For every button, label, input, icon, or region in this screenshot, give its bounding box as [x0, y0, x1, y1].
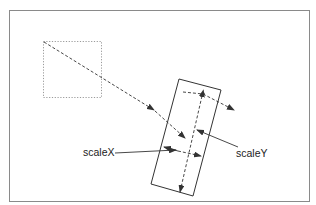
rotation-arrow — [203, 94, 234, 110]
pivot-point — [201, 92, 205, 96]
translation-arrow-1 — [44, 42, 154, 110]
source-square-outline — [44, 42, 102, 98]
scale-y-axis-arrow — [180, 96, 202, 192]
scale-x-pointer — [115, 150, 176, 153]
transformed-rectangle — [151, 79, 221, 196]
scale-transform-diagram: scaleX scaleY — [0, 0, 316, 205]
translation-arrow-2 — [155, 111, 185, 138]
scale-x-label: scaleX — [83, 146, 115, 158]
scale-y-pointer — [197, 130, 238, 147]
scale-y-label: scaleY — [236, 147, 268, 159]
rotation-baseline — [183, 92, 203, 94]
diagram-frame — [10, 11, 310, 202]
